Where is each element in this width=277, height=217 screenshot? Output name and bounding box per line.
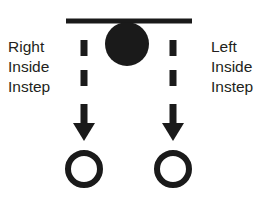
- right-dash-segment-2: [170, 70, 177, 86]
- ball-marker: [105, 22, 149, 66]
- drill-diagram: Right Inside Instep Left Inside Instep: [0, 0, 277, 217]
- right-inside-instep-label-line-3: Instep: [8, 77, 50, 97]
- right-inside-instep-label-line-1: Right: [8, 37, 50, 57]
- left-dash-segment-2: [81, 70, 88, 86]
- right-dash-segment-1: [170, 40, 177, 56]
- right-arrow-icon: [162, 104, 184, 141]
- left-inside-instep-label-line-3: Instep: [211, 77, 253, 97]
- left-dashed-path: [68, 40, 100, 185]
- left-inside-instep-label-line-1: Left: [211, 37, 253, 57]
- right-dashed-path: [157, 40, 189, 185]
- left-inside-instep-label-line-2: Inside: [211, 57, 253, 77]
- left-inside-instep-label: Left Inside Instep: [211, 37, 253, 97]
- right-inside-instep-label-line-2: Inside: [8, 57, 50, 77]
- right-inside-instep-label: Right Inside Instep: [8, 37, 50, 97]
- left-cone-marker: [68, 153, 100, 185]
- left-dash-segment-1: [81, 40, 88, 56]
- drill-graphic: [0, 0, 277, 217]
- right-cone-marker: [157, 153, 189, 185]
- left-arrow-icon: [73, 104, 95, 141]
